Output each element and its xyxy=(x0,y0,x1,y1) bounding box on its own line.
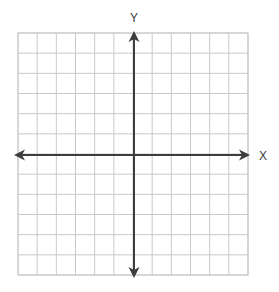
y-axis-label: Y xyxy=(130,11,138,25)
figure-background xyxy=(0,0,279,292)
coordinate-plane-figure: X Y xyxy=(0,0,279,292)
x-axis-label: X xyxy=(259,149,267,163)
coordinate-grid-svg: X Y xyxy=(0,0,279,292)
